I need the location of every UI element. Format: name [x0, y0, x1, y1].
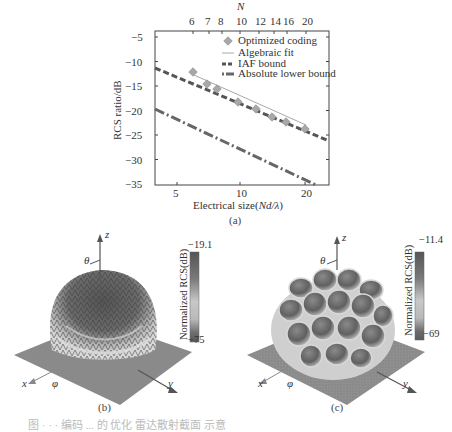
- caption-c: (c): [331, 401, 343, 413]
- colorbar-max: −19.1: [188, 239, 212, 250]
- axis-x-label: x: [258, 377, 263, 389]
- axis-y-label: y: [403, 377, 408, 389]
- axis-x-label: x: [22, 377, 27, 389]
- colorbar-label: Normalized RCS(dB): [178, 249, 189, 340]
- absolute-lower-bound-line: [155, 109, 316, 185]
- axis-phi-label: φ: [52, 377, 58, 389]
- axis-y-label: y: [168, 377, 173, 389]
- legend-item: Optimized coding: [238, 34, 317, 46]
- algebraic-fit-line: [194, 75, 306, 125]
- colorbar-min: −75: [188, 334, 204, 345]
- surface-plot-b: [0, 230, 230, 405]
- plot-area: [0, 0, 452, 230]
- axis-z-label: z: [105, 228, 109, 240]
- colorbar-label: Normalized RCS(dB): [403, 245, 414, 336]
- axis-phi-label: φ: [287, 377, 293, 389]
- axis-z-label: z: [342, 231, 346, 243]
- figure-caption-cutoff: 图 · · · 编码 ... 的 优化 雷达散射截面 示意: [28, 416, 226, 432]
- colorbar-min: −69: [423, 328, 439, 339]
- caption-b: (b): [98, 401, 111, 413]
- legend-item: Absolute lower bound: [238, 67, 336, 79]
- axis-theta-label: θ: [320, 254, 325, 266]
- axis-theta-label: θ: [84, 254, 89, 266]
- colorbar-max: −11.4: [419, 234, 443, 245]
